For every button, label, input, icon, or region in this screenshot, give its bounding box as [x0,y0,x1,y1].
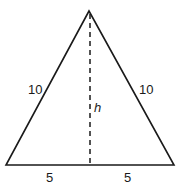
right-base-label: 5 [124,170,131,185]
height-label: h [94,100,101,115]
left-base-label: 5 [46,170,53,185]
triangle-diagram: 10 10 h 5 5 [0,0,182,194]
right-side-label: 10 [139,82,153,97]
left-side-label: 10 [28,82,42,97]
